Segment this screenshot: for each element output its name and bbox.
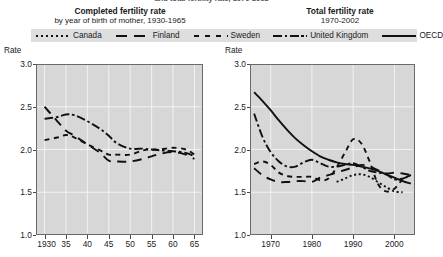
y-tick-mark xyxy=(33,107,37,108)
legend-label: Finland xyxy=(150,31,180,40)
x-tick-mark xyxy=(394,235,395,239)
plot-left-lines xyxy=(6,58,210,250)
legend-item-sweden: Sweden xyxy=(194,29,261,42)
left-chart-subtitle: by year of birth of mother, 1930-1965 xyxy=(30,16,210,26)
legend-line-sample-dotted xyxy=(36,32,70,40)
legend-line-sample-solid xyxy=(382,32,416,40)
plot-right-lines xyxy=(222,58,418,250)
y-tick-label: 3.0 xyxy=(8,59,32,69)
legend-line-sample-medium-dash xyxy=(194,32,228,40)
y-tick-mark xyxy=(33,64,37,65)
y-tick-mark xyxy=(33,192,37,193)
x-tick-label: 2000 xyxy=(385,239,404,249)
y-tick-label: 1.0 xyxy=(222,230,246,240)
x-tick-label: 60 xyxy=(168,239,177,249)
x-tick-label: 1930 xyxy=(37,239,56,249)
x-tick-mark xyxy=(152,235,153,239)
y-tick-label: 2.0 xyxy=(222,145,246,155)
left-chart-title: Completed fertility rate xyxy=(30,6,210,16)
x-tick-mark xyxy=(130,235,131,239)
completed-fertility-rate-chart: 1.01.52.02.53.0193035404550556065 xyxy=(6,58,210,250)
x-tick-label: 45 xyxy=(104,239,113,249)
total-fertility-rate-chart: 1.01.52.02.53.01970198019902000 xyxy=(222,58,418,250)
legend-line-sample-long-dash xyxy=(116,32,150,40)
legend-line-sample-dash-dot xyxy=(273,32,307,40)
y-tick-mark xyxy=(247,235,251,236)
y-tick-label: 1.5 xyxy=(222,187,246,197)
x-tick-mark xyxy=(109,235,110,239)
x-tick-label: 1970 xyxy=(261,239,280,249)
left-y-axis-caption: Rate xyxy=(4,46,21,55)
x-tick-label: 1990 xyxy=(344,239,363,249)
y-tick-label: 2.5 xyxy=(8,102,32,112)
legend-label: Sweden xyxy=(228,31,261,40)
x-tick-mark xyxy=(194,235,195,239)
x-tick-mark xyxy=(66,235,67,239)
right-chart-subtitle: 1970-2002 xyxy=(265,16,415,26)
left-plot-wrap xyxy=(6,58,210,250)
legend-label: United Kingdom xyxy=(307,31,368,40)
y-tick-label: 1.0 xyxy=(8,230,32,240)
y-tick-label: 1.5 xyxy=(8,187,32,197)
y-tick-mark xyxy=(247,150,251,151)
x-tick-label: 1980 xyxy=(303,239,322,249)
x-tick-label: 40 xyxy=(83,239,92,249)
right-chart-title-block: Total fertility rate 1970-2002 xyxy=(265,6,415,26)
series-oecd xyxy=(254,92,411,183)
x-tick-mark xyxy=(312,235,313,239)
y-tick-mark xyxy=(247,107,251,108)
x-tick-label: 65 xyxy=(190,239,199,249)
x-tick-mark xyxy=(271,235,272,239)
right-plot-wrap xyxy=(222,58,418,250)
y-tick-mark xyxy=(33,235,37,236)
right-chart-title: Total fertility rate xyxy=(265,6,415,16)
x-tick-label: 50 xyxy=(126,239,135,249)
legend-item-united-kingdom: United Kingdom xyxy=(273,29,368,42)
x-tick-mark xyxy=(87,235,88,239)
x-tick-label: 55 xyxy=(147,239,156,249)
legend-label: Canada xyxy=(70,31,102,40)
y-tick-label: 2.5 xyxy=(222,102,246,112)
series-united-kingdom xyxy=(254,114,411,180)
gridlines xyxy=(37,65,201,233)
x-tick-label: 35 xyxy=(61,239,70,249)
x-tick-mark xyxy=(173,235,174,239)
right-y-axis-caption: Rate xyxy=(225,46,242,55)
legend-label: OECD xyxy=(416,31,443,40)
series-sweden xyxy=(254,139,411,192)
gridlines xyxy=(251,65,413,233)
x-tick-mark xyxy=(353,235,354,239)
y-tick-label: 3.0 xyxy=(222,59,246,69)
y-tick-label: 2.0 xyxy=(8,145,32,155)
y-tick-mark xyxy=(33,150,37,151)
y-tick-mark xyxy=(247,192,251,193)
cut-off-banner-text: and total fertility rate, 1970-2002 xyxy=(0,0,423,3)
y-tick-mark xyxy=(247,64,251,65)
x-tick-mark xyxy=(45,235,46,239)
legend-item-oecd: OECD xyxy=(382,29,443,42)
legend-item-canada: Canada xyxy=(36,29,102,42)
chart-legend: CanadaFinlandSwedenUnited KingdomOECD xyxy=(31,29,417,42)
left-chart-title-block: Completed fertility rate by year of birt… xyxy=(30,6,210,26)
legend-item-finland: Finland xyxy=(116,29,180,42)
